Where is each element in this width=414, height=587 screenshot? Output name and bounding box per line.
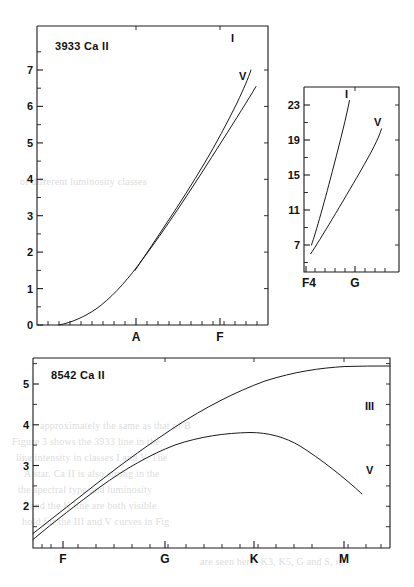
panel-8542-y-minor-ticks <box>33 364 37 527</box>
panel-8542-x-tick-label: K <box>250 552 259 566</box>
panel-8542-y-tick-label: 2 <box>23 500 29 512</box>
panel-3933: 0 1 2 3 4 5 6 7 <box>27 26 268 344</box>
panel-3933-y-tick-label: 7 <box>27 64 33 76</box>
panel-inset-axes <box>304 87 399 272</box>
panel-8542-x-tick-label: G <box>160 552 169 566</box>
panel-8542-x-tick-label: F <box>59 552 66 566</box>
panel-inset-y-tick-label: 15 <box>288 169 300 181</box>
panel-3933-y-tick-label: 3 <box>27 210 33 222</box>
panel-3933-x-tick-label: A <box>132 330 141 344</box>
panel-8542-curve-III <box>33 366 390 534</box>
panel-3933-title: 3933 Ca II <box>55 40 109 52</box>
panel-3933-y-tick-label: 1 <box>27 283 33 295</box>
panel-inset-y-tick-label: 23 <box>288 99 300 111</box>
panel-inset-curve-label-V: V <box>374 116 382 128</box>
panel-8542-axes <box>33 358 390 548</box>
panel-inset-y-ticks-right <box>395 105 399 245</box>
panel-3933-y-ticks-right <box>264 70 268 289</box>
panel-8542-x-ticks-top <box>165 358 344 362</box>
panel-inset-curve-I <box>312 101 350 246</box>
panel-3933-y-tick-label: 4 <box>27 173 34 185</box>
panel-3933-curve-V <box>59 87 256 326</box>
panel-inset-x-tick-label: F4 <box>302 276 316 290</box>
panel-inset-curve-label-I: I <box>345 88 348 100</box>
panel-8542-y-tick-label: 5 <box>23 378 29 390</box>
panel-inset-y-tick-label: 7 <box>294 239 300 251</box>
panel-3933-curve-I <box>135 70 251 270</box>
panel-8542-curve-V <box>33 433 362 540</box>
panel-inset: 23 19 15 11 7 F4 G <box>288 87 399 290</box>
panel-3933-curve-label-V: V <box>239 70 247 82</box>
panel-8542-y-tick-label: 4 <box>23 419 30 431</box>
panel-inset-x-tick-label: G <box>350 276 359 290</box>
panel-3933-y-tick-label: 0 <box>27 319 33 331</box>
panel-3933-x-minor-ticks <box>48 321 257 325</box>
panel-8542-y-tick-label: 3 <box>23 460 29 472</box>
panel-3933-x-tick-label: F <box>216 330 223 344</box>
panel-8542-y-ticks-right <box>386 364 390 527</box>
panel-8542-frame-top-right <box>33 358 390 548</box>
panel-3933-frame-top-right <box>37 26 268 325</box>
panel-8542-curve-label-V: V <box>366 464 374 476</box>
panel-inset-x-minor-ticks <box>315 268 385 272</box>
panel-inset-y-minor-ticks <box>304 123 308 263</box>
panel-3933-x-ticks-top <box>136 26 220 30</box>
panel-8542-curve-label-III: III <box>365 400 374 412</box>
panel-3933-y-tick-label: 2 <box>27 246 33 258</box>
panel-8542-x-tick-label: M <box>339 552 349 566</box>
astronomy-line-chart-figure: 0 1 2 3 4 5 6 7 <box>0 0 414 587</box>
panel-3933-y-tick-label: 5 <box>27 137 33 149</box>
panel-8542-x-minor-ticks <box>42 544 381 548</box>
panel-8542-title: 8542 Ca II <box>51 369 105 381</box>
panel-inset-y-tick-label: 11 <box>288 204 300 216</box>
panel-inset-frame-top-right <box>304 87 399 272</box>
figure-page: of different luminosity classes approxim… <box>0 0 414 587</box>
panel-inset-y-tick-label: 19 <box>288 134 300 146</box>
panel-3933-y-tick-label: 6 <box>27 100 33 112</box>
panel-8542: 2 3 4 5 <box>23 358 390 566</box>
panel-3933-axes <box>37 26 268 325</box>
panel-3933-curve-label-I: I <box>231 32 234 44</box>
panel-inset-y-ticks <box>304 105 310 245</box>
panel-inset-curve-V <box>311 129 382 254</box>
